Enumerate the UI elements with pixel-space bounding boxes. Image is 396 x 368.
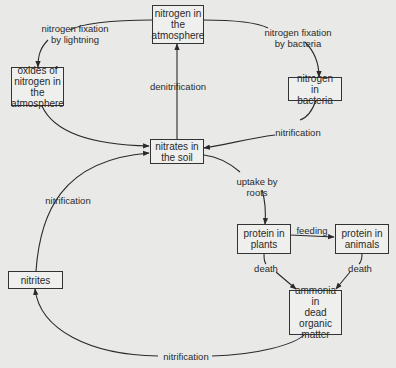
label-nitrogen-fixation-bacteria: nitrogen fixation by bacteria <box>260 27 336 49</box>
label-uptake-by-roots: uptake by roots <box>232 176 282 198</box>
edge-nitrification-ammonia <box>212 334 305 356</box>
label-nitrification-ammonia: nitrification <box>158 351 214 362</box>
node-nitrogen-in-bacteria: nitrogen in bacteria <box>288 77 342 101</box>
label-nitrification-nitrites: nitrification <box>40 195 96 206</box>
node-protein-in-plants: protein in plants <box>237 224 291 254</box>
edge-bacteria-fixation <box>203 20 268 28</box>
node-oxides-of-nitrogen: oxides of nitrogen in the atmosphere <box>11 67 64 106</box>
label-feeding: feeding <box>292 225 332 236</box>
label-denitrification: denitrification <box>148 81 208 92</box>
edge-oxides-to-nitrates <box>42 106 149 146</box>
node-nitrogen-in-atmosphere: nitrogen in the atmosphere <box>152 5 204 44</box>
edge-uptake <box>204 155 240 172</box>
label-death-animals: death <box>344 263 376 274</box>
label-nitrogen-fixation-lightning: nitrogen fixation by lightning <box>40 23 110 45</box>
label-nitrification-bacteria: nitrification <box>272 127 324 138</box>
node-nitrates-in-soil: nitrates in the soil <box>150 139 204 164</box>
edge-nitrification-nitrites <box>36 153 149 271</box>
node-protein-in-animals: protein in animals <box>335 224 389 254</box>
node-ammonia-in-dead-organic-matter: ammonia in dead organic matter <box>289 290 342 335</box>
node-nitrites: nitrites <box>8 271 63 289</box>
label-death-plants: death <box>250 263 282 274</box>
